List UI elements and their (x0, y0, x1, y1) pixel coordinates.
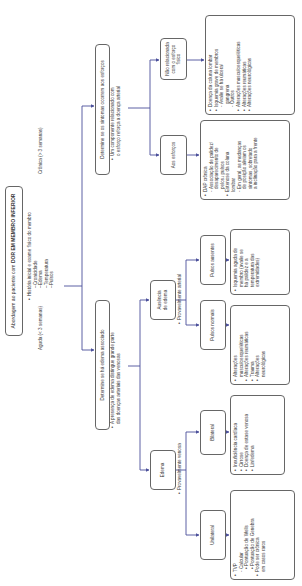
list-item: a inclinação para a frente (253, 124, 259, 192)
flowchart-canvas: Abordagem ao paciente com DOR EM MEMBRO … (0, 0, 302, 586)
no-edema-note: Provavelmente arterial (177, 274, 183, 324)
list-item: em casos raros (261, 494, 267, 572)
not-related-label: com o esforço físico (171, 45, 182, 74)
no-edema-label: Ausência (157, 291, 162, 310)
not-related-box: Não relacionadacom o esforço físico (160, 38, 187, 80)
absent-pulses-causes-box: Isquemia aguda demembro (avalie sehá pal… (230, 229, 290, 295)
normal-pulses-box: Pulsos normais (200, 300, 226, 350)
absent-pulses-box: Pulsos ausentes (200, 235, 226, 285)
acute-note: A presença de edema distingue grande par… (110, 332, 121, 428)
unilateral-causes-box: TVPCalcularPontuação de WellsPontuação d… (230, 490, 295, 580)
history-block: História inicial e exame físico do membr… (27, 212, 55, 300)
chronic-question-box: Determine se os sintomas ocorrem aos esf… (95, 44, 110, 175)
root-title-prefix: Abordagem ao paciente com (10, 263, 16, 328)
bilateral-box: Bilateral (200, 410, 226, 455)
not-related-label: Não relacionada (165, 42, 170, 75)
normal-pulses-label: Pulsos normais (210, 309, 216, 340)
acute-branch-label: Aguda (< 3 semanas) (38, 306, 44, 350)
unilateral-box: Unilateral (200, 510, 226, 560)
on-exertion-box: Aos esforços (160, 135, 187, 175)
acute-question-box: Determine se há edema associado (95, 300, 110, 430)
bilateral-label: Bilateral (210, 424, 216, 441)
exertion-causes-box: DAP crônicaAssociação de palidez/desapar… (200, 120, 290, 200)
edema-box: Edema (150, 450, 176, 490)
root-title-box: Abordagem ao paciente com DOR EM MEMBRO … (5, 186, 23, 336)
root-title-emphasis: DOR EM MEMBRO INFERIOR (10, 194, 16, 263)
chronic-note-line: o esforço reforça a doença arterial (116, 86, 122, 156)
chronic-question-text: Determine se os sintomas ocorrem aos esf… (100, 60, 106, 159)
list-item: Alterações neurológicas (247, 19, 253, 107)
history-item: Pulsos (49, 212, 55, 288)
absent-pulses-label: Pulsos ausentes (210, 243, 216, 277)
chronic-branch-label: Crônica (> 3 semanas) (38, 127, 44, 174)
chronic-note: Um componente relacionado com o esforço … (110, 86, 121, 160)
list-item: neurológicas (261, 309, 267, 377)
acute-question-text: Determine se há edema associado (100, 330, 106, 401)
normal-pulses-causes-box: AlteraçõesmusculoesqueléticasAlterações … (230, 305, 290, 385)
list-item: extremidades) (255, 233, 261, 287)
edema-label: Edema (160, 463, 166, 478)
list-item: Linfedema (250, 399, 256, 467)
no-edema-note-text: Provavelmente arterial (177, 274, 183, 320)
bilateral-causes-box: Insuficiência cardíacaCirroseDoença de e… (230, 395, 285, 475)
unilateral-label: Unilateral (210, 525, 216, 544)
acute-note-line: das doenças arteriais das venosas (116, 332, 122, 424)
no-edema-box: Ausênciade edema (150, 280, 176, 320)
edema-note: Provavelmente venosa (177, 443, 183, 494)
no-edema-label: de edema (163, 290, 168, 310)
not-related-causes-box: Doença da coluna lombarIsquemia grave de… (205, 15, 295, 115)
on-exertion-label: Aos esforços (171, 142, 177, 169)
edema-note-text: Provavelmente venosa (177, 443, 183, 490)
